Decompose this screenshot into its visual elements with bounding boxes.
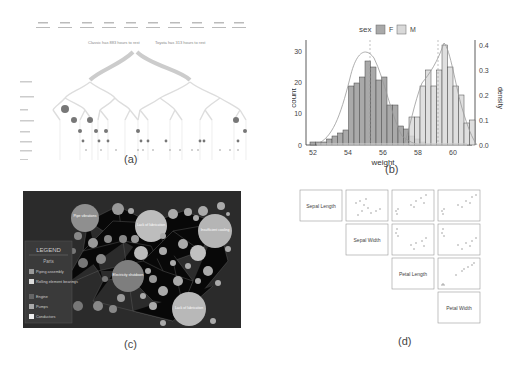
matrix-cells — [300, 190, 480, 323]
y-axis-right-label: density — [496, 87, 504, 110]
svg-text:0: 0 — [298, 142, 302, 149]
scatter-matrix: Sepal Length Sepal Width Petal Length Pe… — [296, 183, 506, 333]
svg-text:30: 30 — [294, 48, 302, 55]
legend-title: sex — [359, 25, 371, 34]
svg-text:0.3: 0.3 — [479, 67, 489, 74]
svg-text:0.1: 0.1 — [479, 117, 489, 124]
y-axis-right: 0.00.10.20.30.4 — [479, 42, 489, 149]
legend-label-f: F — [389, 26, 393, 33]
tree-leaf-edges — [60, 120, 246, 160]
svg-text:0.0: 0.0 — [479, 142, 489, 149]
caption-c: (c) — [124, 338, 137, 350]
caption-b: (b) — [385, 163, 398, 175]
tree-row-labels — [20, 81, 34, 160]
svg-text:10: 10 — [294, 110, 302, 117]
svg-text:54: 54 — [344, 149, 352, 156]
network-panel: Pipe vibrations Lack of lubrication Insu… — [23, 191, 241, 328]
network-graph: Pipe vibrations Lack of lubrication Insu… — [23, 191, 241, 328]
var-label-petal-width: Petal Width — [446, 305, 472, 311]
caption-d: (d) — [398, 335, 411, 347]
legend-entry: Engine — [36, 295, 48, 299]
tree-right-summary: Toyota has 313 hours to rest — [155, 40, 206, 45]
legend-entry: Piping assembly — [36, 270, 64, 274]
svg-text:0.2: 0.2 — [479, 92, 489, 99]
legend-swatch-f — [376, 25, 385, 34]
header-columns — [36, 22, 246, 28]
legend-entry: Pumps — [36, 305, 48, 309]
series-m-bars — [409, 45, 475, 145]
legend-swatch-m — [397, 25, 406, 34]
svg-text:Pipe vibrations: Pipe vibrations — [74, 214, 97, 218]
decision-tree-chart: Classic has 883 hours to rest Toyota has… — [20, 10, 250, 160]
var-label-sepal-length: Sepal Length — [306, 203, 336, 209]
rug — [317, 143, 467, 146]
y-axis-label: count — [292, 87, 298, 107]
tree-left-summary: Classic has 883 hours to rest — [88, 40, 140, 45]
tree-nodes — [61, 105, 250, 142]
svg-text:0.4: 0.4 — [479, 42, 489, 49]
legend-label-m: M — [410, 26, 416, 33]
legend: sex F M — [359, 25, 416, 34]
svg-text:52: 52 — [309, 149, 317, 156]
tree-panel: Classic has 883 hours to rest Toyota has… — [20, 10, 250, 160]
network-legend: LEGEND Parts Piping assembly Rolling ele… — [25, 241, 78, 323]
svg-text:Electricity shutdown: Electricity shutdown — [113, 273, 144, 277]
legend-entry: Rolling element bearings — [36, 280, 78, 284]
svg-text:20: 20 — [294, 79, 302, 86]
scatter-matrix-panel: Sepal Length Sepal Width Petal Length Pe… — [296, 183, 506, 333]
var-label-sepal-width: Sepal Width — [354, 237, 381, 243]
svg-text:60: 60 — [449, 149, 457, 156]
histogram-panel: sex F M 0102030 count 0.00.10.20.30.4 de… — [292, 8, 511, 173]
legend-subtitle: Parts — [43, 259, 54, 264]
x-axis: 5254565860 — [309, 149, 457, 156]
caption-a: (a) — [124, 153, 137, 165]
histogram-chart: sex F M 0102030 count 0.00.10.20.30.4 de… — [292, 8, 511, 173]
legend-title: LEGEND — [36, 247, 61, 253]
legend-entry: Conductors — [36, 315, 56, 319]
svg-text:58: 58 — [414, 149, 422, 156]
svg-text:Insufficient cooling: Insufficient cooling — [201, 228, 230, 232]
svg-text:56: 56 — [379, 149, 387, 156]
svg-text:Lack of lubrication: Lack of lubrication — [175, 306, 203, 310]
svg-text:Lack of lubrication: Lack of lubrication — [137, 223, 165, 227]
var-label-petal-length: Petal Length — [399, 271, 427, 277]
